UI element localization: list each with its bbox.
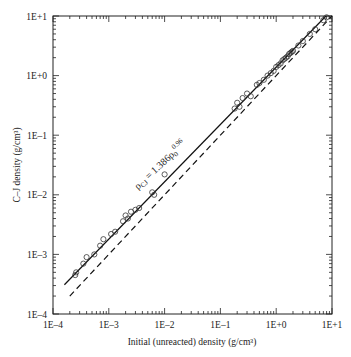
x-tick-label: 1E–4 (43, 320, 63, 330)
data-points (73, 15, 330, 278)
x-axis-title: Initial (unreacted) density (g/cm³) (128, 337, 257, 348)
x-tick-label: 1E–3 (99, 320, 119, 330)
data-point (84, 255, 89, 260)
x-tick-label: 1E–1 (210, 320, 230, 330)
data-point (244, 91, 249, 96)
y-tick-label: 1E+0 (26, 71, 47, 81)
data-point (101, 237, 106, 242)
x-tick-label: 1E–2 (155, 320, 175, 330)
fit-solid-line (64, 16, 326, 285)
x-tick-labels: 1E–41E–31E–21E–11E+01E+1 (43, 320, 343, 330)
y-tick-label: 1E–1 (27, 131, 47, 141)
fit-lines (64, 16, 332, 296)
identity-dashed-line (70, 16, 332, 296)
y-tick-labels: 1E–41E–31E–21E–11E+01E+1 (26, 12, 47, 320)
y-tick-label: 1E–3 (27, 250, 47, 260)
data-point (240, 95, 245, 100)
data-point (120, 219, 125, 224)
x-tick-label: 1E+1 (322, 320, 343, 330)
chart: 1E–41E–31E–21E–11E+01E+1 1E–41E–31E–21E–… (0, 0, 351, 357)
y-tick-label: 1E–4 (27, 310, 47, 320)
y-tick-label: 1E+1 (26, 12, 47, 22)
data-point (162, 172, 167, 177)
x-tick-label: 1E+0 (266, 320, 287, 330)
y-axis-title: C–J density (g/cm³) (12, 127, 23, 202)
data-point (248, 94, 253, 99)
y-tick-label: 1E–2 (27, 190, 47, 200)
